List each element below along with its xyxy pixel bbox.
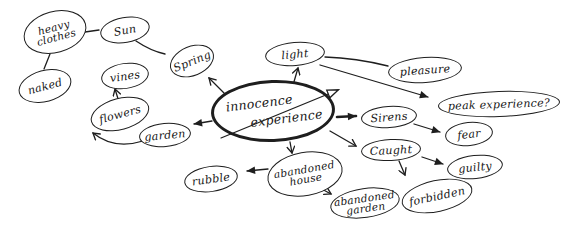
node-garden-label: garden bbox=[144, 128, 186, 143]
node-caught-label: Caught bbox=[370, 143, 413, 156]
nodes-layer: heavyclothesSunnakedvinesSpringflowersga… bbox=[0, 0, 578, 232]
node-rubble: rubble bbox=[182, 162, 239, 195]
node-sirens: Sirens bbox=[360, 104, 417, 130]
node-heavy-clothes: heavyclothes bbox=[19, 3, 92, 60]
node-innocence-experience: innocenceexperience bbox=[210, 78, 336, 144]
node-pleasure: pleasure bbox=[387, 54, 463, 85]
node-abandoned-house: abandonedhouse bbox=[264, 146, 346, 203]
node-forbidden: forbidden bbox=[398, 173, 475, 219]
node-sun-label: Sun bbox=[113, 23, 137, 38]
node-fear-label: fear bbox=[457, 127, 482, 140]
node-guilty: guilty bbox=[446, 152, 504, 182]
node-vines: vines bbox=[99, 60, 150, 92]
mind-map-canvas: heavyclothesSunnakedvinesSpringflowersga… bbox=[0, 0, 578, 232]
node-spring: Spring bbox=[165, 38, 219, 83]
node-abandoned-garden: abandonedgarden bbox=[328, 183, 401, 222]
node-naked: naked bbox=[15, 64, 75, 109]
node-sun: Sun bbox=[98, 13, 152, 47]
node-forbidden-label: forbidden bbox=[408, 185, 466, 208]
node-rubble-label: rubble bbox=[191, 171, 230, 187]
node-caught: Caught bbox=[360, 137, 421, 162]
node-sirens-label: Sirens bbox=[370, 110, 408, 124]
node-guilty-label: guilty bbox=[458, 160, 493, 174]
node-peak-experience-label: peak experience? bbox=[448, 97, 551, 112]
node-light-label: light bbox=[281, 47, 309, 60]
node-spring-label: Spring bbox=[172, 49, 213, 74]
node-peak-experience: peak experience? bbox=[438, 89, 561, 119]
node-garden: garden bbox=[138, 121, 192, 149]
node-fear: fear bbox=[444, 120, 494, 149]
node-vines-label: vines bbox=[109, 68, 141, 83]
node-pleasure-label: pleasure bbox=[399, 63, 450, 77]
node-naked-label: naked bbox=[26, 76, 63, 96]
node-flowers-label: flowers bbox=[98, 103, 143, 125]
node-light: light bbox=[264, 39, 326, 68]
